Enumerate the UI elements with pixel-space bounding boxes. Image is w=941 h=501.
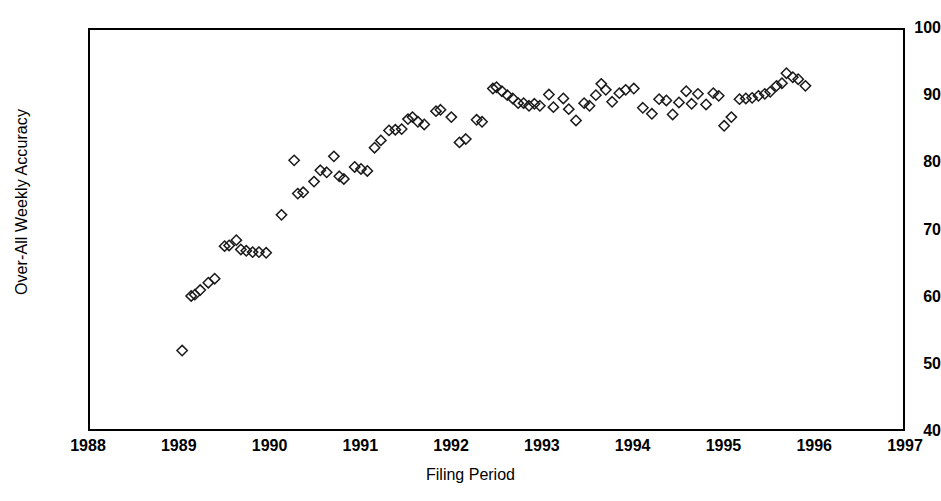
data-point-marker (638, 103, 648, 113)
data-point-marker (209, 274, 219, 284)
y-axis-label: Over-All Weekly Accuracy (13, 12, 31, 392)
data-point-marker (558, 93, 568, 103)
x-tick-label: 1992 (416, 437, 486, 455)
data-point-marker (800, 81, 810, 91)
x-tick-label: 1996 (779, 437, 849, 455)
data-point-marker (544, 89, 554, 99)
data-point-marker (681, 86, 691, 96)
data-point-marker (298, 187, 308, 197)
data-point-marker (535, 101, 545, 111)
data-point-marker (446, 112, 456, 122)
data-point-marker (236, 244, 246, 254)
x-tick-label: 1989 (144, 437, 214, 455)
x-tick-label: 1993 (507, 437, 577, 455)
data-point-marker (376, 135, 386, 145)
data-point-marker (177, 345, 187, 355)
data-point-marker (471, 115, 481, 125)
x-axis-label: Filing Period (0, 466, 941, 484)
data-point-marker (701, 99, 711, 109)
data-point-marker (781, 68, 791, 78)
data-point-marker (548, 102, 558, 112)
data-point-marker (369, 143, 379, 153)
data-point-marker (329, 151, 339, 161)
data-point-marker (571, 115, 581, 125)
x-tick-label: 1995 (688, 437, 758, 455)
x-tick-label: 1988 (53, 437, 123, 455)
data-point-marker (726, 112, 736, 122)
data-point-marker (309, 176, 319, 186)
data-point-marker (203, 278, 213, 288)
plot-area (88, 28, 905, 431)
data-point-marker (591, 90, 601, 100)
data-point-marker (647, 109, 657, 119)
data-points-layer (90, 30, 903, 429)
data-point-marker (693, 89, 703, 99)
data-point-marker (564, 104, 574, 114)
data-point-marker (667, 109, 677, 119)
data-point-marker (195, 285, 205, 295)
data-point-marker (529, 99, 539, 109)
data-point-marker (276, 210, 286, 220)
x-tick-label: 1991 (325, 437, 395, 455)
data-point-marker (719, 121, 729, 131)
data-point-marker (686, 99, 696, 109)
x-tick-label: 1997 (870, 437, 940, 455)
data-point-marker (477, 117, 487, 127)
data-point-marker (788, 72, 798, 82)
data-point-marker (601, 85, 611, 95)
data-point-marker (596, 79, 606, 89)
x-tick-label: 1994 (598, 437, 668, 455)
data-point-marker (289, 155, 299, 165)
data-point-marker (293, 188, 303, 198)
scatter-chart-figure: Over-All Weekly Accuracy 405060708090100… (0, 0, 941, 501)
x-tick-label: 1990 (235, 437, 305, 455)
data-point-marker (793, 74, 803, 84)
data-point-marker (674, 97, 684, 107)
data-point-marker (607, 97, 617, 107)
